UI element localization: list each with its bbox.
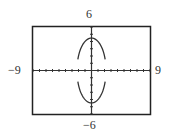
axes — [33, 27, 150, 114]
graph-window — [0, 0, 171, 136]
